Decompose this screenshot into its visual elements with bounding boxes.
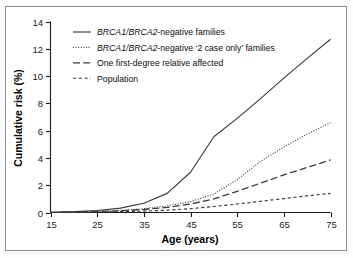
legend-label: BRCA1/BRCA2-negative ‘2 case only’ famil… <box>97 43 276 53</box>
legend-label-rest: -negative ‘2 case only’ families <box>157 43 275 53</box>
figure-container: 15253545556575 02468101214 BRCA1/BRCA2-n… <box>0 0 353 258</box>
y-axis-title: Cumulative risk (%) <box>12 69 24 166</box>
y-tick-label: 10 <box>32 71 43 82</box>
legend-label: BRCA1/BRCA2-negative families <box>97 27 226 37</box>
legend-label-rest: -negative families <box>157 27 225 37</box>
y-tick-label: 2 <box>38 180 43 191</box>
x-tick-label: 55 <box>232 219 243 230</box>
x-tick-label: 15 <box>46 219 57 230</box>
x-tick-label: 25 <box>92 219 103 230</box>
y-tick-label: 0 <box>38 208 43 219</box>
series-line-dashed <box>51 193 331 212</box>
x-tick-label: 35 <box>139 219 150 230</box>
legend-label: Population <box>97 74 138 84</box>
y-tick-label: 14 <box>32 17 43 28</box>
legend-label-rest: One first-degree relative affected <box>97 58 224 68</box>
x-tick-group: 15253545556575 <box>46 213 337 230</box>
y-tick-label: 6 <box>38 126 43 137</box>
x-tick-label: 65 <box>279 219 290 230</box>
legend-gene-italic: BRCA1/BRCA2 <box>97 27 158 37</box>
legend-label: One first-degree relative affected <box>97 58 224 68</box>
y-tick-group: 02468101214 <box>32 17 50 219</box>
legend-gene-italic: BRCA1/BRCA2 <box>97 43 158 53</box>
series-line-dashdot <box>51 160 331 212</box>
legend-group: BRCA1/BRCA2-negative familiesBRCA1/BRCA2… <box>73 27 276 83</box>
legend-label-rest: Population <box>97 74 138 84</box>
y-tick-label: 4 <box>38 153 43 164</box>
x-axis-title: Age (years) <box>161 233 218 245</box>
series-line-dotted <box>51 122 331 212</box>
x-tick-label: 75 <box>326 219 337 230</box>
x-tick-label: 45 <box>186 219 197 230</box>
y-tick-label: 12 <box>32 44 43 55</box>
y-tick-label: 8 <box>38 98 43 109</box>
chart-canvas: 15253545556575 02468101214 BRCA1/BRCA2-n… <box>0 0 353 258</box>
